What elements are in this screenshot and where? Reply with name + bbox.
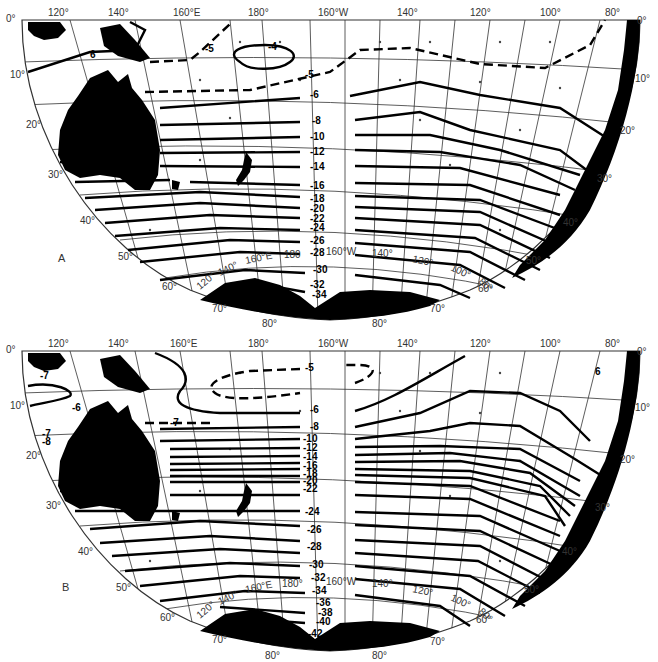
svg-text:140°: 140° (216, 588, 239, 607)
svg-text:10°: 10° (10, 400, 25, 411)
land-tasmania (172, 180, 180, 190)
map-panel-a: -4 -5 -5 6 -6 -8 -10 -12 -14 -16 -18 -20… (0, 0, 658, 331)
svg-text:140°: 140° (108, 7, 129, 18)
svg-text:160°W: 160°W (326, 576, 357, 587)
svg-text:0°: 0° (637, 15, 647, 26)
contour-label: -26 (307, 524, 322, 535)
svg-text:160°W: 160°W (318, 7, 349, 18)
svg-text:40°: 40° (562, 546, 577, 557)
contour-label: -26 (310, 235, 325, 246)
contour-label: -12 (310, 146, 325, 157)
svg-text:140°: 140° (372, 248, 393, 259)
svg-text:100°: 100° (540, 7, 561, 18)
svg-text:180°: 180° (248, 338, 269, 349)
longitude-labels-top: 120° 140° 160°E 180° 160°W 140° 120° 100… (48, 338, 620, 349)
svg-text:80°: 80° (262, 318, 277, 329)
latitude-labels-bottom: 80° 80° (265, 650, 387, 661)
svg-text:40°: 40° (563, 217, 578, 228)
map-a-svg: -4 -5 -5 6 -6 -8 -10 -12 -14 -16 -18 -20… (0, 0, 658, 331)
svg-text:20°: 20° (26, 119, 41, 130)
contour-label: -7 (170, 417, 179, 428)
map-panel-b: -5 -6 -6 6 -7 -7 -7 -8 -8 -10 -12 -14 -1… (0, 331, 658, 662)
contour-label: -16 (310, 180, 325, 191)
svg-text:180°: 180° (248, 7, 269, 18)
svg-text:120°: 120° (470, 338, 491, 349)
land-tasmania (172, 511, 180, 521)
contour-label: -5 (305, 362, 314, 373)
map-b-svg: -5 -6 -6 6 -7 -7 -7 -8 -8 -10 -12 -14 -1… (0, 331, 658, 662)
contour-label: -7 (40, 370, 49, 381)
svg-text:180: 180 (284, 249, 301, 260)
contour-label: -32 (311, 572, 326, 583)
land-new-zealand (236, 152, 252, 186)
svg-text:60°: 60° (160, 612, 175, 623)
contour-label: -22 (303, 483, 318, 494)
station-dots (149, 372, 521, 562)
svg-text:0°: 0° (6, 344, 16, 355)
svg-text:0°: 0° (6, 13, 16, 24)
svg-text:30°: 30° (595, 502, 610, 513)
contour-label: -5 (305, 69, 314, 80)
svg-text:120°: 120° (48, 7, 69, 18)
contour-label: -10 (310, 131, 325, 142)
panel-label-a: A (58, 252, 66, 264)
contour-label: -4 (268, 41, 277, 52)
contour-label: -34 (312, 289, 327, 300)
contour-label: -28 (307, 541, 322, 552)
land-australia (58, 70, 160, 190)
contour-label: -6 (310, 89, 319, 100)
contour-label: -24 (305, 506, 320, 517)
svg-text:80°: 80° (372, 650, 387, 661)
svg-text:30°: 30° (48, 169, 63, 180)
svg-text:80°: 80° (265, 650, 280, 661)
svg-text:80°: 80° (372, 318, 387, 329)
svg-text:140°: 140° (108, 338, 129, 349)
land-indonesia (28, 353, 66, 371)
svg-text:140°: 140° (397, 7, 418, 18)
svg-text:30°: 30° (46, 500, 61, 511)
svg-text:50°: 50° (524, 584, 539, 595)
svg-text:140°: 140° (397, 338, 418, 349)
svg-text:160°W: 160°W (326, 246, 357, 257)
contour-label: -5 (205, 43, 214, 54)
panel-label-b: B (62, 581, 69, 593)
svg-text:50°: 50° (116, 582, 131, 593)
svg-text:160°W: 160°W (318, 338, 349, 349)
svg-text:70°: 70° (212, 634, 227, 645)
svg-text:20°: 20° (26, 450, 41, 461)
contour-label: -6 (310, 404, 319, 415)
svg-text:30°: 30° (597, 173, 612, 184)
svg-text:70°: 70° (212, 303, 227, 314)
contour-label: -8 (42, 436, 51, 447)
longitude-labels-top: 120° 140° 160°E 180° 160°W 140° 120° 100… (48, 7, 620, 18)
svg-text:80°: 80° (605, 338, 620, 349)
contour-label: -8 (310, 421, 319, 432)
svg-text:10°: 10° (635, 402, 650, 413)
svg-text:120°: 120° (470, 7, 491, 18)
contour-label: -30 (313, 264, 328, 275)
svg-text:20°: 20° (620, 454, 635, 465)
svg-text:120°: 120° (48, 338, 69, 349)
land-south-america (512, 20, 640, 278)
contour-label: 6 (90, 49, 96, 60)
svg-text:180°: 180° (282, 578, 303, 589)
svg-text:40°: 40° (80, 215, 95, 226)
contour-label: -8 (312, 115, 321, 126)
contour-label: -6 (72, 402, 81, 413)
svg-text:160°E: 160°E (173, 7, 201, 18)
svg-text:100°: 100° (449, 262, 472, 281)
svg-text:70°: 70° (430, 636, 445, 647)
contour-label: 6 (595, 366, 601, 377)
svg-text:100°: 100° (540, 338, 561, 349)
land-australia (58, 401, 160, 521)
contour-label: -24 (310, 222, 325, 233)
land-indonesia (28, 22, 66, 40)
svg-text:140°: 140° (216, 259, 239, 278)
svg-text:10°: 10° (635, 73, 650, 84)
contour-label: -28 (310, 247, 325, 258)
contour-label: -14 (310, 161, 325, 172)
contour-label: -40 (316, 616, 331, 627)
svg-text:20°: 20° (620, 125, 635, 136)
svg-text:160°E: 160°E (170, 338, 198, 349)
svg-text:0°: 0° (637, 346, 647, 357)
